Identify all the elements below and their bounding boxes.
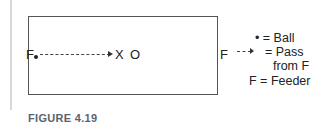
opponent-marker: O: [130, 48, 140, 61]
pass-arrow: [40, 54, 110, 55]
legend-pass-from: from F: [273, 59, 311, 73]
legend-feeder: F = Feeder: [249, 74, 311, 88]
legend: • = Ball = Pass from F F = Feeder: [247, 31, 311, 88]
feeder-label-right: F: [220, 48, 228, 61]
feeder-label-left: F: [26, 48, 34, 61]
figure-caption: FIGURE 4.19: [28, 112, 97, 124]
legend-pass: = Pass: [265, 45, 311, 59]
ball-icon: [34, 55, 38, 59]
target-marker: X: [115, 48, 124, 61]
arrowhead-icon: [108, 51, 113, 57]
legend-ball: • = Ball: [255, 31, 311, 45]
margin-rule: [10, 0, 12, 110]
